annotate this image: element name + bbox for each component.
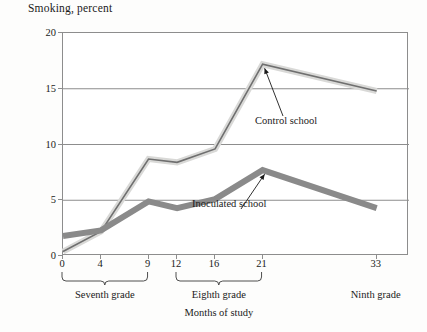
grade-group-label: Eighth grade (192, 289, 246, 300)
x-tick-label: 33 (370, 258, 381, 269)
x-tick-label: 4 (97, 258, 102, 269)
y-tick-label: 15 (30, 82, 56, 93)
annotation-arrow-head (260, 174, 265, 180)
x-tick-mark (262, 255, 263, 259)
x-tick-mark (214, 255, 215, 259)
grade-group-label: Ninth grade (351, 289, 401, 300)
x-tick-label: 16 (209, 258, 220, 269)
x-tick-label: 9 (145, 258, 150, 269)
annotation-arrow-head (264, 68, 269, 74)
x-tick-label: 12 (171, 258, 182, 269)
grade-group-brace (60, 272, 150, 286)
series-annotation-label: Control school (255, 115, 317, 126)
grade-group-brace (174, 272, 264, 286)
x-tick-label: 0 (59, 258, 64, 269)
plot-area (62, 32, 408, 255)
grade-group-label: Seventh grade (75, 289, 135, 300)
x-tick-mark (100, 255, 101, 259)
y-tick-mark (58, 88, 62, 89)
y-tick-label: 20 (30, 27, 56, 38)
y-tick-label: 0 (30, 250, 56, 261)
x-tick-mark (148, 255, 149, 259)
y-tick-label: 5 (30, 194, 56, 205)
y-tick-mark (58, 144, 62, 145)
annotation-arrows (63, 33, 409, 256)
x-tick-mark (176, 255, 177, 259)
y-tick-label: 10 (30, 138, 56, 149)
chart-figure: Smoking, percent 05101520 04912162133 Co… (0, 0, 427, 332)
x-tick-label: 21 (256, 258, 267, 269)
annotation-arrow-line (265, 68, 283, 116)
y-tick-mark (58, 32, 62, 33)
chart-title: Smoking, percent (28, 2, 112, 14)
x-tick-mark (376, 255, 377, 259)
x-tick-mark (62, 255, 63, 259)
series-annotation-label: Inoculated school (192, 198, 266, 209)
x-axis-label: Months of study (184, 307, 253, 318)
y-tick-mark (58, 199, 62, 200)
